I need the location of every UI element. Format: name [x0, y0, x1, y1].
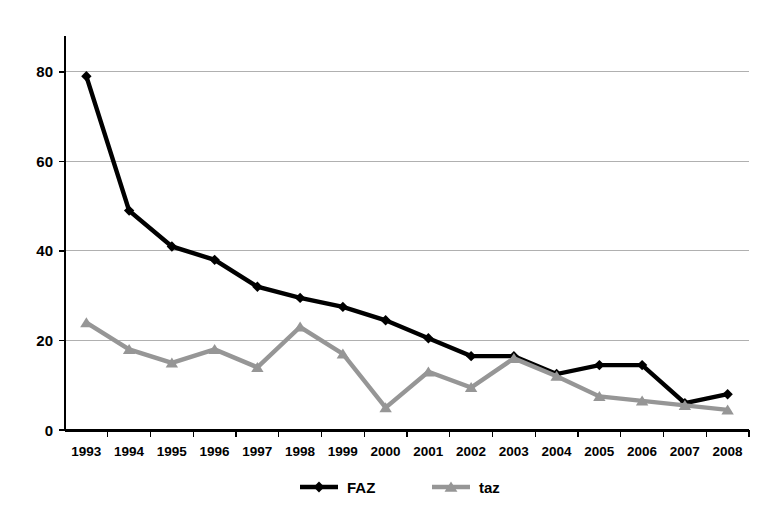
series-line-faz [86, 76, 727, 403]
x-tick-label-1993: 1993 [71, 444, 102, 459]
legend-item-faz[interactable]: FAZ [300, 479, 375, 496]
x-tick-label-2005: 2005 [584, 444, 615, 459]
x-tick-label-1999: 1999 [328, 444, 358, 459]
x-tick-label-2000: 2000 [371, 444, 401, 459]
x-tick-label-2001: 2001 [413, 444, 444, 459]
x-tick-label-2003: 2003 [499, 444, 530, 459]
legend-marker-faz [314, 482, 325, 493]
line-chart-figure: 020406080 199319941995199619971998199920… [0, 0, 777, 518]
y-tick-label-0: 0 [45, 422, 53, 439]
x-tick-label-1995: 1995 [157, 444, 188, 459]
x-tick-label-2004: 2004 [542, 444, 573, 459]
x-tick-label-1998: 1998 [285, 444, 316, 459]
x-tick-label-2006: 2006 [627, 444, 658, 459]
x-tick-labels-group: 1993199419951996199719981999200020012002… [71, 444, 743, 459]
x-tick-label-2008: 2008 [713, 444, 744, 459]
y-tick-label-40: 40 [36, 242, 53, 259]
legend-label-faz: FAZ [347, 479, 375, 496]
data-point-faz-1993 [81, 71, 91, 81]
data-point-faz-1998 [295, 293, 305, 303]
data-series-group [80, 71, 734, 414]
x-tick-label-1994: 1994 [114, 444, 145, 459]
x-tick-label-1997: 1997 [242, 444, 272, 459]
y-tick-label-60: 60 [36, 153, 53, 170]
data-point-taz-1998 [294, 322, 306, 332]
y-tick-label-20: 20 [36, 332, 53, 349]
data-point-faz-1999 [338, 302, 348, 312]
y-tick-marks-group [59, 72, 65, 430]
x-tick-label-1996: 1996 [200, 444, 231, 459]
chart-canvas: 020406080 199319941995199619971998199920… [0, 0, 777, 518]
x-tick-label-2007: 2007 [670, 444, 700, 459]
x-tick-label-2002: 2002 [456, 444, 486, 459]
legend-label-taz: taz [479, 479, 500, 496]
gridlines-group [65, 72, 749, 341]
legend-item-taz[interactable]: taz [432, 479, 500, 496]
chart-legend: FAZtaz [300, 479, 500, 496]
y-tick-label-80: 80 [36, 63, 53, 80]
data-point-faz-2008 [722, 389, 732, 399]
series-faz [81, 71, 733, 408]
data-point-taz-1993 [80, 317, 92, 327]
y-tick-labels-group: 020406080 [36, 63, 53, 438]
data-point-faz-2005 [594, 360, 604, 370]
